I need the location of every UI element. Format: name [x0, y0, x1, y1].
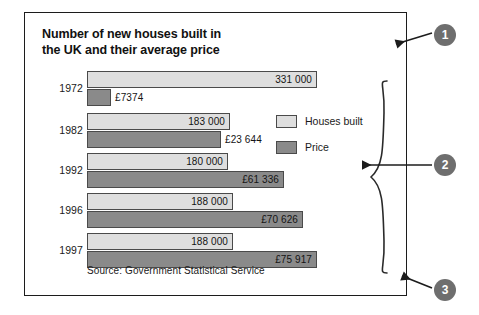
bar-price-1992[interactable]: £61 336 — [87, 171, 284, 188]
bar-group-1996: 1996 188 000 £70 626 — [25, 193, 408, 231]
legend-item-houses-built[interactable]: Houses built — [276, 111, 363, 131]
source-note: Source: Government Statistical Service — [87, 265, 265, 276]
bar-houses-1982[interactable]: 183 000 — [87, 113, 230, 130]
callout-marker-1[interactable]: 1 — [434, 24, 456, 46]
category-label-1982: 1982 — [43, 124, 83, 136]
callout-marker-3[interactable]: 3 — [434, 279, 456, 301]
bar-value-houses-1997: 188 000 — [191, 234, 228, 249]
bar-value-houses-1996: 188 000 — [191, 194, 228, 209]
bar-value-price-1982: £23 644 — [225, 132, 262, 147]
bar-value-price-1992: £61 336 — [242, 172, 279, 187]
bar-group-1972: 1972 331 000 £7374 — [25, 71, 408, 109]
chart-frame: Number of new houses built in the UK and… — [24, 12, 407, 296]
bar-value-price-1996: £70 626 — [261, 212, 298, 227]
brace-icon — [365, 79, 393, 275]
category-label-1997: 1997 — [43, 244, 83, 256]
bar-houses-1997[interactable]: 188 000 — [87, 233, 233, 250]
bar-value-houses-1972: 331 000 — [275, 72, 312, 87]
bar-price-1982[interactable]: £23 644 — [87, 131, 221, 148]
legend-swatch-houses-icon — [276, 115, 297, 128]
bar-value-price-1972: £7374 — [115, 90, 143, 105]
legend-label-houses-built: Houses built — [305, 115, 363, 127]
category-label-1992: 1992 — [43, 164, 83, 176]
bar-houses-1972[interactable]: 331 000 — [87, 71, 317, 88]
bar-value-houses-1992: 180 000 — [186, 154, 223, 169]
category-label-1972: 1972 — [43, 82, 83, 94]
category-label-1996: 1996 — [43, 204, 83, 216]
legend-item-price[interactable]: Price — [276, 137, 363, 157]
callout-marker-2[interactable]: 2 — [434, 154, 456, 176]
bar-value-houses-1982: 183 000 — [188, 114, 225, 129]
plot-area: 1972 331 000 £7374 1982 183 000 £23 644 … — [25, 13, 408, 297]
bar-price-1972[interactable]: £7374 — [87, 89, 111, 106]
bar-price-1996[interactable]: £70 626 — [87, 211, 303, 228]
legend: Houses built Price — [276, 111, 363, 163]
legend-swatch-price-icon — [276, 141, 297, 154]
bar-houses-1992[interactable]: 180 000 — [87, 153, 228, 170]
legend-label-price: Price — [305, 141, 329, 153]
bar-value-price-1997: £75 917 — [275, 252, 312, 267]
bar-houses-1996[interactable]: 188 000 — [87, 193, 233, 210]
